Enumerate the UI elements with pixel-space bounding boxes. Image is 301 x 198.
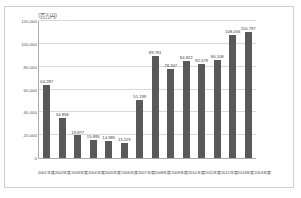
bar-value-label: 86,108 — [211, 54, 224, 59]
x-axis-tick-label: 2008年度 — [155, 169, 172, 175]
x-axis-label-slot: 2009年度 — [171, 160, 188, 178]
bar-slot: 110,797 — [241, 21, 257, 158]
bar-value-label: 108,056 — [225, 29, 240, 34]
x-axis-tick-label: 2005年度 — [105, 169, 122, 175]
x-axis-tick-label: 2002年度 — [55, 169, 72, 175]
y-axis-tick-label: 100,000 — [21, 41, 37, 46]
x-axis-label-slot: 2004年度 — [88, 160, 105, 178]
bar[interactable]: 15,895 — [90, 140, 97, 158]
bar[interactable]: 89,781 — [152, 56, 159, 158]
bar[interactable]: 82,679 — [198, 64, 205, 158]
bar[interactable]: 110,797 — [245, 32, 252, 158]
x-axis-labels: 2001年度2002年度2003年度2004年度2005年度2006年度2007… — [38, 160, 256, 178]
x-axis-label-slot: 2002年度 — [55, 160, 72, 178]
x-axis-tick-label: 2011年度 — [205, 169, 221, 175]
bar-slot: 13,119 — [117, 21, 133, 158]
bar[interactable]: 13,119 — [121, 143, 128, 158]
bar[interactable]: 64,287 — [43, 85, 50, 158]
bar[interactable]: 86,108 — [214, 60, 221, 158]
x-axis-tick-label: 2001年度 — [38, 169, 55, 175]
bar-value-label: 110,797 — [241, 26, 256, 31]
plot-area: 120,000100,00080,00060,00040,00020,0000 … — [38, 21, 256, 159]
bar-value-label: 14,985 — [102, 135, 115, 140]
x-axis-tick-label: 2013年度 — [238, 169, 255, 175]
x-axis-tick-label: 2012年度 — [221, 169, 238, 175]
bar-value-label: 64,287 — [40, 79, 53, 84]
bar-value-label: 89,781 — [149, 50, 162, 55]
bar-value-label: 34,858 — [56, 112, 69, 117]
bar-slot: 108,056 — [225, 21, 241, 158]
y-axis-tick-label: 80,000 — [24, 64, 37, 69]
bar-slot: 82,679 — [194, 21, 210, 158]
bar[interactable]: 108,056 — [229, 35, 236, 158]
x-axis-tick-label: 2014年度 — [254, 169, 271, 175]
plot-inner: 120,000100,00080,00060,00040,00020,0000 … — [38, 21, 256, 159]
x-axis-label-slot: 2005年度 — [105, 160, 122, 178]
x-axis-tick-label: 2010年度 — [188, 169, 205, 175]
bar[interactable]: 34,858 — [59, 118, 66, 158]
chart-figure: （百万円） 120,000100,00080,00060,00040,00020… — [4, 6, 294, 188]
bar-value-label: 82,679 — [195, 58, 208, 63]
bar-slot: 86,108 — [210, 21, 226, 158]
bar-value-label: 51,199 — [133, 94, 146, 99]
x-axis-label-slot: 2007年度 — [138, 160, 155, 178]
x-axis-label-slot: 2003年度 — [71, 160, 88, 178]
x-axis-label-slot: 2010年度 — [188, 160, 205, 178]
x-axis-label-slot: 2013年度 — [238, 160, 255, 178]
x-axis-label-slot: 2006年度 — [121, 160, 138, 178]
bar[interactable]: 78,347 — [167, 69, 174, 158]
bar[interactable]: 19,877 — [74, 135, 81, 158]
bar-slot: 84,822 — [179, 21, 195, 158]
x-axis-label-slot: 2014年度 — [254, 160, 271, 178]
x-axis-label-slot: 2001年度 — [38, 160, 55, 178]
bar-slot: 34,858 — [55, 21, 71, 158]
bar[interactable]: 84,822 — [183, 61, 190, 158]
y-axis-tick-label: 40,000 — [24, 110, 37, 115]
bar-value-label: 15,895 — [87, 134, 100, 139]
y-axis-tick-label: 20,000 — [24, 133, 37, 138]
bar-slot: 89,781 — [148, 21, 164, 158]
bar-series: 64,28734,85819,87715,89514,98513,11951,1… — [39, 21, 256, 158]
x-axis-label-slot: 2008年度 — [155, 160, 172, 178]
bar-value-label: 78,347 — [164, 63, 177, 68]
bar-slot: 14,985 — [101, 21, 117, 158]
x-axis-tick-label: 2007年度 — [138, 169, 155, 175]
y-axis-tick-label: 120,000 — [21, 19, 37, 24]
bar[interactable]: 51,199 — [136, 100, 143, 158]
x-axis-tick-label: 2004年度 — [88, 169, 105, 175]
bar-slot: 51,199 — [132, 21, 148, 158]
bar-value-label: 13,119 — [118, 137, 131, 142]
x-axis-tick-label: 2006年度 — [121, 169, 138, 175]
y-axis-unit-label: （百万円） — [35, 12, 60, 19]
y-axis-tick-label: 0 — [35, 156, 37, 161]
y-axis-tick-label: 60,000 — [24, 87, 37, 92]
x-axis-label-slot: 2012年度 — [221, 160, 238, 178]
bar-slot: 15,895 — [86, 21, 102, 158]
bar-value-label: 19,877 — [71, 130, 84, 135]
bar-slot: 19,877 — [70, 21, 86, 158]
bar-slot: 78,347 — [163, 21, 179, 158]
x-axis-tick-label: 2003年度 — [71, 169, 88, 175]
x-axis-label-slot: 2011年度 — [205, 160, 221, 178]
bar-value-label: 84,822 — [180, 55, 193, 60]
bar[interactable]: 14,985 — [105, 141, 112, 158]
bar-slot: 64,287 — [39, 21, 55, 158]
x-axis-tick-label: 2009年度 — [171, 169, 188, 175]
